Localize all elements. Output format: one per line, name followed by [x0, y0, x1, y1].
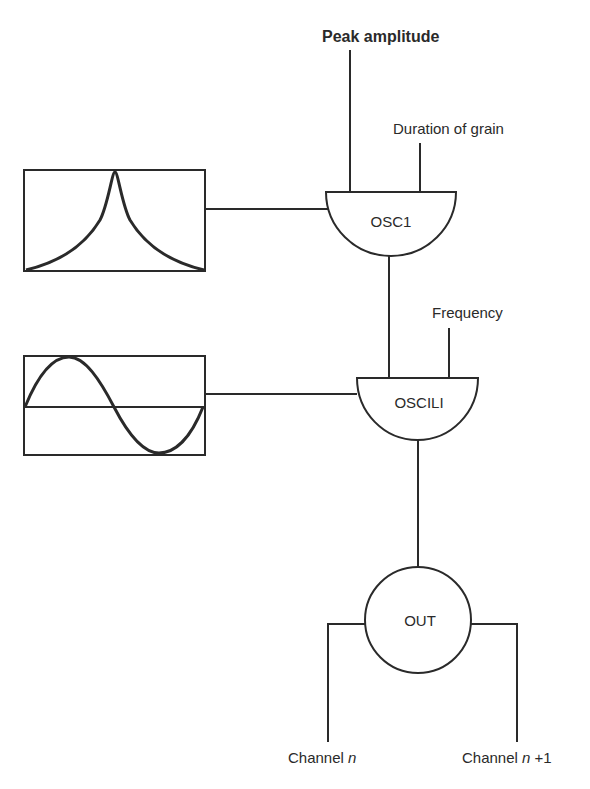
- channel-left-label: Channel n: [288, 749, 356, 766]
- channel-right-var: n: [522, 749, 530, 766]
- oscili-node: OSCILI: [357, 378, 478, 440]
- peak-amplitude-label: Peak amplitude: [322, 28, 439, 45]
- out-node: OUT: [365, 567, 471, 673]
- duration-of-grain-label: Duration of grain: [393, 120, 504, 137]
- channel-left-var: n: [348, 749, 356, 766]
- osc1-node: OSC1: [326, 192, 456, 256]
- envelope-table: [24, 170, 205, 271]
- envelope-table-frame: [24, 170, 205, 271]
- channel-right-label: Channel n +1: [462, 749, 552, 766]
- osc1-label: OSC1: [371, 213, 412, 230]
- waveform-table: [24, 356, 205, 455]
- channel-left-line: [328, 624, 365, 742]
- frequency-label: Frequency: [432, 304, 503, 321]
- granular-synthesis-diagram: Peak amplitude Duration of grain OSC1 Fr…: [0, 0, 590, 789]
- channel-right-line: [471, 624, 517, 742]
- channel-right-suffix: +1: [530, 749, 551, 766]
- oscili-label: OSCILI: [394, 394, 443, 411]
- out-label: OUT: [404, 612, 436, 629]
- channel-left-prefix: Channel: [288, 749, 348, 766]
- channel-right-prefix: Channel: [462, 749, 522, 766]
